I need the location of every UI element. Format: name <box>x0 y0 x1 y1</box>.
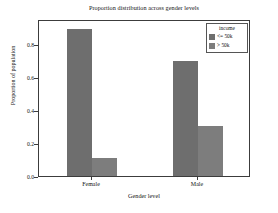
legend-entries: <= 50k> 50k <box>209 32 245 50</box>
legend-entry[interactable]: > 50k <box>209 41 245 50</box>
legend-entry[interactable]: <= 50k <box>209 32 245 41</box>
bar <box>173 61 198 176</box>
x-tick-label: Male <box>167 181 227 188</box>
y-tick-label: 0.8 <box>12 42 34 48</box>
y-tick-label: 0.6 <box>12 75 34 81</box>
legend-entry-label: > 50k <box>217 42 229 49</box>
legend: income <= 50k> 50k <box>206 23 248 53</box>
bar <box>67 29 92 176</box>
chart-title: Proportion distribution across gender le… <box>38 4 250 12</box>
y-tick-label: 0.0 <box>12 174 34 180</box>
y-tick-label: 0.2 <box>12 141 34 147</box>
chart-figure: Proportion distribution across gender le… <box>0 0 278 213</box>
legend-title: income <box>209 25 245 32</box>
y-tick-mark <box>34 177 38 178</box>
legend-entry-label: <= 50k <box>217 33 233 40</box>
x-tick-label: Female <box>61 181 121 188</box>
bar <box>92 158 117 176</box>
x-tick-mark <box>91 177 92 180</box>
legend-swatch-icon <box>209 43 215 49</box>
legend-swatch-icon <box>209 34 215 40</box>
bar <box>198 126 223 176</box>
x-axis-label: Gender level <box>38 192 250 199</box>
x-tick-mark <box>197 177 198 180</box>
y-tick-label: 0.4 <box>12 108 34 114</box>
